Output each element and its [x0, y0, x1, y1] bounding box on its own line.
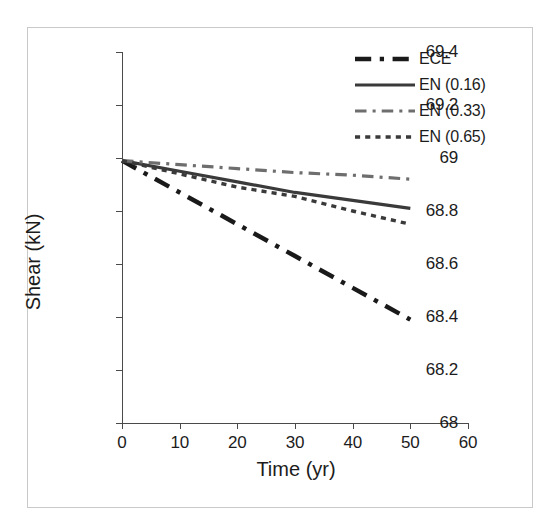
x-tick-label: 20	[228, 433, 247, 453]
x-axis-label: Time (yr)	[256, 458, 335, 481]
legend-item-en-0-65[interactable]: EN (0.65)	[355, 124, 530, 150]
x-tick	[237, 423, 238, 429]
x-tick	[295, 423, 296, 429]
x-tick-label: 0	[117, 433, 126, 453]
legend-item-en-0-16[interactable]: EN (0.16)	[355, 72, 530, 98]
legend-label: EN (0.16)	[419, 76, 486, 94]
series-line-ece	[122, 161, 410, 320]
x-tick-label: 10	[170, 433, 189, 453]
x-tick	[122, 423, 123, 429]
x-tick-label: 40	[343, 433, 362, 453]
legend-label: EN (0.33)	[419, 102, 486, 120]
legend-item-ece[interactable]: ECE	[355, 46, 530, 72]
x-tick-label: 60	[459, 433, 478, 453]
legend-swatch-icon	[355, 77, 415, 93]
legend-label: EN (0.65)	[419, 128, 486, 146]
x-tick-label: 50	[401, 433, 420, 453]
legend-swatch-icon	[355, 129, 415, 145]
x-tick	[468, 423, 469, 429]
x-tick-label: 30	[286, 433, 305, 453]
x-tick	[353, 423, 354, 429]
legend-label: ECE	[419, 50, 451, 68]
legend: ECEEN (0.16)EN (0.33)EN (0.65)	[355, 46, 530, 150]
x-tick	[180, 423, 181, 429]
legend-swatch-icon	[355, 103, 415, 119]
legend-item-en-0-33[interactable]: EN (0.33)	[355, 98, 530, 124]
y-axis-label: Shear (kN)	[22, 214, 45, 311]
legend-swatch-icon	[355, 51, 415, 67]
x-tick	[410, 423, 411, 429]
figure-container: Shear (kN) Time (yr) 6868.268.468.668.86…	[0, 0, 550, 525]
